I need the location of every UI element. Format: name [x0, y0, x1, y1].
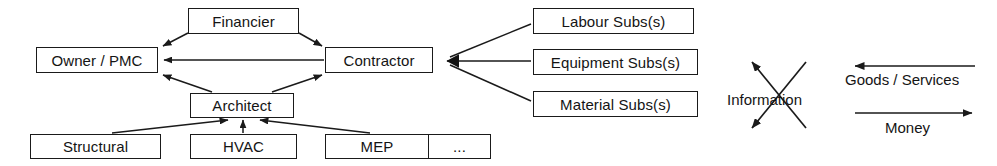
edge-structural-to-architect [112, 120, 228, 133]
node-mep-label: MEP [361, 139, 394, 154]
node-architect[interactable]: Architect [190, 93, 294, 118]
node-labour-subs[interactable]: Labour Subs(s) [533, 8, 694, 34]
node-ellipsis-label: ... [453, 139, 466, 154]
node-financier[interactable]: Financier [188, 8, 299, 34]
legend-money-label: Money [885, 120, 930, 135]
edge-mep-to-architect [260, 120, 370, 133]
node-equipment-subs[interactable]: Equipment Subs(s) [533, 49, 698, 75]
node-hvac[interactable]: HVAC [190, 134, 297, 159]
node-hvac-label: HVAC [223, 139, 264, 154]
node-contractor[interactable]: Contractor [325, 47, 433, 73]
node-mep[interactable]: MEP [325, 134, 429, 159]
legend-goods-services-label: Goods / Services [845, 72, 959, 87]
edge-architect-to-owner [163, 75, 212, 92]
node-material-subs[interactable]: Material Subs(s) [533, 91, 698, 117]
node-contractor-label: Contractor [343, 53, 414, 68]
node-structural[interactable]: Structural [30, 134, 161, 159]
node-owner-pmc-label: Owner / PMC [51, 53, 142, 68]
node-financier-label: Financier [212, 14, 275, 29]
node-equipment-subs-label: Equipment Subs(s) [551, 55, 680, 70]
node-owner-pmc[interactable]: Owner / PMC [36, 47, 158, 73]
node-material-subs-label: Material Subs(s) [560, 97, 671, 112]
edge-financier-to-contractor [299, 33, 322, 46]
edge-financier-to-owner [163, 33, 188, 46]
edge-labour-to-contractor [450, 24, 531, 57]
node-structural-label: Structural [63, 139, 128, 154]
stakeholder-diagram: Owner / PMC Financier Contractor Archite… [0, 0, 997, 166]
node-ellipsis[interactable]: ... [428, 134, 491, 159]
edge-architect-to-contractor [272, 75, 322, 92]
node-labour-subs-label: Labour Subs(s) [562, 14, 666, 29]
node-architect-label: Architect [212, 98, 271, 113]
legend-information-label: Information [727, 92, 802, 107]
edge-material-to-contractor [450, 65, 531, 101]
